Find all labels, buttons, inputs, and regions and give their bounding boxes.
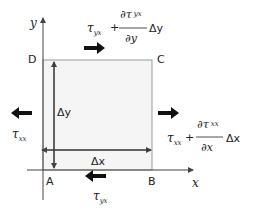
left-stress-arrow xyxy=(11,107,32,119)
y-axis-label: y xyxy=(29,16,37,30)
svg-text:∂x: ∂x xyxy=(201,141,214,154)
top-stress-arrow xyxy=(84,42,105,54)
left-stress-label: τxx xyxy=(12,127,27,143)
bottom-stress-label: τyx xyxy=(93,189,108,205)
corner-c: C xyxy=(157,53,165,66)
dy-label: Δy xyxy=(57,106,72,119)
svg-text:+: + xyxy=(110,21,119,34)
svg-text:τxx: τxx xyxy=(12,127,27,143)
svg-text:τyx: τyx xyxy=(93,189,108,205)
svg-text:∂τxx: ∂τxx xyxy=(197,118,219,131)
top-stress-label: τyx + ∂τyx ∂y Δy xyxy=(87,8,164,45)
bottom-stress-arrow xyxy=(85,170,106,182)
svg-text:Δx: Δx xyxy=(226,132,241,145)
svg-text:∂y: ∂y xyxy=(125,32,138,45)
right-stress-label: τxx + ∂τxx ∂x Δx xyxy=(167,118,241,154)
x-axis-label: x xyxy=(192,176,199,190)
corner-d: D xyxy=(28,53,36,66)
svg-text:∂τyx: ∂τyx xyxy=(120,8,142,21)
corner-a: A xyxy=(46,175,54,188)
fluid-element-diagram: y x D C A B Δy Δx τyx + ∂τyx ∂y Δy τxx τ… xyxy=(0,0,253,216)
svg-text:Δy: Δy xyxy=(149,22,164,35)
corner-b: B xyxy=(148,175,156,188)
svg-text:+: + xyxy=(185,131,194,144)
svg-text:τxx: τxx xyxy=(167,131,182,147)
dx-label: Δx xyxy=(91,155,106,168)
right-stress-arrow xyxy=(158,107,179,119)
svg-text:τyx: τyx xyxy=(87,21,102,37)
